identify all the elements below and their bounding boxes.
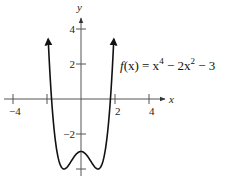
x-axis-label: x	[168, 93, 174, 105]
x-tick-label: 2	[115, 105, 121, 117]
function-graph: x y −424 42−2 f(x) = x4 − 2x2 − 3	[0, 0, 227, 178]
y-tick-label: 2	[70, 58, 76, 70]
x-tick-label: −4	[9, 105, 21, 117]
x-tick-label: 4	[149, 105, 155, 117]
y-ticks: 42−2	[63, 23, 86, 169]
function-label: f(x) = x4 − 2x2 − 3	[120, 56, 215, 73]
axes: x y	[4, 1, 174, 176]
x-ticks: −424	[9, 94, 155, 117]
y-tick-label: 4	[70, 23, 76, 35]
y-axis-label: y	[76, 1, 82, 13]
y-tick-label: −2	[63, 128, 75, 140]
